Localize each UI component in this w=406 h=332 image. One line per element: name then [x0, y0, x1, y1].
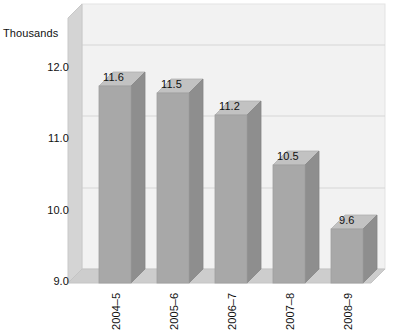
bar-front-face — [99, 86, 131, 283]
data-label-2004-5: 11.6 — [103, 71, 124, 83]
bar-side-face — [305, 151, 319, 283]
data-label-2006-7: 11.2 — [219, 100, 240, 112]
left-wall — [68, 4, 82, 283]
bar-2005-6 — [157, 79, 203, 283]
y-tick-label-9: 9.0 — [9, 275, 69, 287]
x-tick-label-2007-8: 2007–8 — [284, 293, 296, 330]
y-tick-label-10: 10.0 — [9, 204, 69, 216]
bar-front-face — [157, 93, 189, 283]
y-axis-title: Thousands — [3, 27, 58, 39]
x-tick-label-2005-6: 2005–6 — [168, 293, 180, 330]
data-label-2008-9: 9.6 — [339, 214, 355, 226]
bar-2004-5 — [99, 72, 145, 283]
bar-side-face — [131, 72, 145, 283]
x-tick-label-2004-5: 2004–5 — [110, 293, 122, 330]
data-label-2007-8: 10.5 — [277, 150, 299, 162]
bar-side-face — [189, 79, 203, 283]
bar-2006-7 — [215, 101, 261, 283]
y-tick-label-11: 11.0 — [9, 132, 69, 144]
x-tick-label-2006-7: 2006–7 — [226, 293, 238, 330]
x-tick-label-2008-9: 2008–9 — [342, 293, 354, 330]
bar-side-face — [247, 101, 261, 283]
data-label-2005-6: 11.5 — [161, 78, 182, 90]
y-tick-label-12: 12.0 — [9, 61, 69, 73]
bar-front-face — [331, 229, 363, 283]
bar-front-face — [215, 115, 247, 283]
bar-2007-8 — [273, 151, 319, 283]
bar-front-face — [273, 165, 305, 283]
bar-chart: Thousands 12.0 11.0 10.0 9.0 11.6 11.5 1… — [0, 0, 406, 332]
